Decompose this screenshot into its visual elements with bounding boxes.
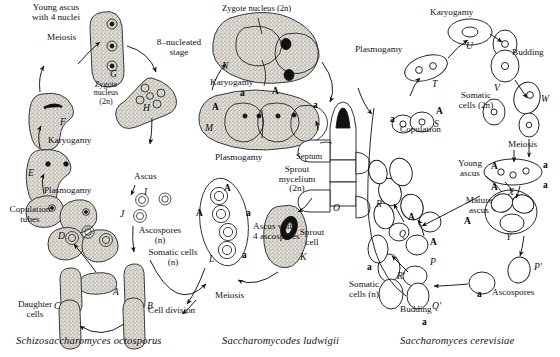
stage-label-G: G [110,68,117,79]
mating-type-a-X-bottom: a [543,180,548,190]
label-young-ascus-right: Young ascus [450,159,490,178]
mating-type-a-L-right: a [246,208,251,218]
stage-label-O: O [333,202,340,213]
label-sprout-mycelium: Sprout mycelium (2n) [272,165,322,194]
label-ascus-left: Ascus [134,172,156,182]
label-mature-ascus: Mature ascus [458,196,500,215]
label-cell-division: Cell division [148,306,195,316]
stage-label-Y: Y [506,231,511,242]
stage-label-B: B [147,300,153,311]
mating-type-A-M-mid: A [272,86,279,96]
stage-label-D: D [58,230,65,241]
stage-label-F: F [60,116,66,127]
label-meiosis-right: Meiosis [508,140,537,150]
stage-label-K: K [300,251,306,262]
label-somatic-cells-2n: Somatic cells (2n) [452,91,500,110]
mating-type-A-R: A [408,212,415,222]
label-karyogamy-middle: Karyogamy [210,78,253,88]
stage-label-N: N [222,60,228,71]
mating-type-A-S: A [436,106,443,116]
label-plasmogamy-right: Plasmogamy [355,45,402,55]
label-ascospores-left: Ascospores (n) [132,226,188,245]
stage-label-P: P [430,256,436,267]
label-copulation-tubes: Copulation tubes [0,205,60,224]
stage-label-I: I [144,186,147,197]
stage-label-J: J [120,208,124,219]
mating-type-A-M-outer: A [212,102,219,112]
label-karyogamy-right: Karyogamy [430,8,473,18]
stage-label-M: M [205,122,213,133]
label-meiosis-middle: Meiosis [215,291,244,301]
mating-type-a-X-top: a [543,160,548,170]
stage-label-Q-prime: Q' [432,300,441,311]
stage-label-Q: Q [399,228,406,239]
mating-type-A-L-left: A [196,208,203,218]
stage-label-X: X [508,186,514,197]
label-ascus-with-4-ascospores: Ascus with 4 ascospores [253,222,300,241]
species-name-right: Saccharomyces cerevisiae [400,335,514,346]
stage-label-U: U [466,40,473,51]
mating-type-a-ascospore: a [477,289,482,299]
label-meiosis-left: Meiosis [47,33,76,43]
label-eight-nucleated-stage: 8–nucleated stage [148,38,210,57]
mating-type-a-S: a [390,114,395,124]
mating-type-a-L-bottom: a [242,250,247,260]
stage-label-R-prime: R' [397,270,405,281]
stage-label-W: W [541,93,549,104]
stage-label-S: S [434,118,439,129]
stage-label-E: E [28,167,34,178]
species-name-left: Schizosaccharomyces octosporus [16,335,162,346]
mating-type-a-Q-prime: a [422,317,427,327]
label-septum: Septum [296,152,322,161]
stage-label-L: L [209,253,214,264]
mating-type-a-M-right: a [313,100,318,110]
mating-type-A-X-top: A [491,161,498,171]
label-sprout-cell: Sprout cell [295,228,329,247]
label-ascospores-right: Ascospores [492,288,534,298]
label-zygote-nucleus-left: Zygote nucleus (2n) [85,81,127,106]
species-name-middle: Saccharomycodes ludwigii [222,335,339,346]
mating-type-A-X-bottom: A [491,182,498,192]
label-plasmogamy-left: Plasmogamy [44,186,91,196]
stage-label-V: V [494,82,500,93]
mating-type-a-M-left: a [240,88,245,98]
label-somatic-cells-n-right: Somatic cells (n) [340,280,388,299]
mating-type-A-L-top: A [224,183,231,193]
stage-label-R: R [376,198,382,209]
label-zygote-nucleus-middle: Zygote nucleus (2n) [222,4,291,13]
label-budding-bottom: Budding [400,305,432,315]
stage-label-C: C [54,300,60,311]
stage-label-A: A [113,286,119,297]
figure-canvas: Young ascus with 4 nuclei Meiosis Zygote… [0,0,560,357]
stage-label-T: T [432,78,437,89]
mating-type-A-Q: A [430,237,437,247]
label-karyogamy-left: Karyogamy [48,136,91,146]
label-somatic-cells-left: Somatic cells (n) [142,248,204,267]
label-plasmogamy-middle: Plasmogamy [215,153,262,163]
mating-type-a-R-prime: a [367,262,372,272]
mating-type-A-mature: A [464,216,471,226]
label-budding-top: Budding [512,48,544,58]
stage-label-P-prime: P' [534,261,542,272]
label-young-ascus-left: Young ascus with 4 nuclei [6,3,106,22]
stage-label-H: H [143,102,150,113]
